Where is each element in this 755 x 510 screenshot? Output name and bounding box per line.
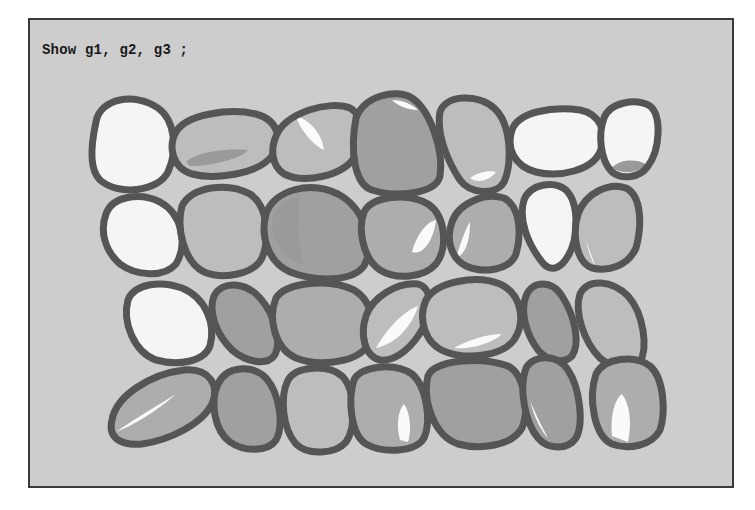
pebble [423, 280, 521, 356]
pebble [273, 106, 361, 179]
pebble [214, 369, 280, 449]
pebble [510, 109, 603, 174]
pebble [180, 187, 266, 275]
pebble-body [578, 283, 644, 368]
pebble [111, 370, 215, 444]
pebble [212, 285, 278, 362]
pebble [273, 283, 373, 363]
pebble [439, 98, 509, 192]
pebble [283, 368, 353, 452]
pebble [524, 284, 576, 361]
pebble-body [111, 370, 215, 444]
pebble [92, 99, 174, 190]
pebble [578, 283, 644, 368]
pebble [361, 197, 443, 276]
pebble [522, 185, 576, 269]
pebble [172, 112, 278, 177]
pebble [426, 361, 525, 447]
pebble-body [212, 285, 278, 362]
pebble [353, 94, 440, 194]
pebble [601, 102, 658, 177]
pebble [523, 358, 580, 447]
pebble [103, 197, 182, 274]
pebble [449, 196, 519, 270]
pebble-body [353, 94, 440, 194]
pebble [593, 359, 664, 447]
pebble [126, 284, 211, 363]
pebble-body [524, 284, 576, 361]
pebble [351, 367, 428, 450]
pebble [264, 188, 369, 279]
pebbles-illustration [0, 0, 755, 510]
pebble-group [92, 94, 663, 452]
pebble [575, 186, 639, 269]
